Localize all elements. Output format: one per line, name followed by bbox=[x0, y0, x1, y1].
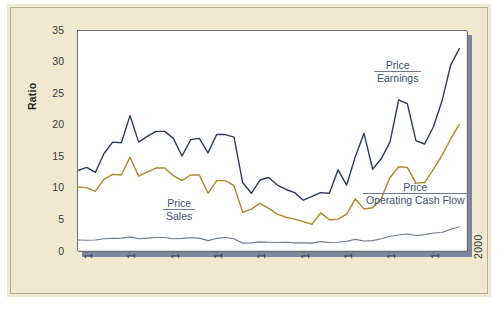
chart-figure: Ratio 05101520253035 1955196019651970197… bbox=[0, 0, 504, 309]
y-tick-label: 20 bbox=[0, 119, 64, 130]
annotation-price-earnings-denominator: Earnings bbox=[374, 72, 421, 84]
y-tick-label: 0 bbox=[0, 246, 64, 257]
annotation-price-ocf-numerator: Price bbox=[363, 181, 468, 194]
annotation-price-earnings-numerator: Price bbox=[374, 59, 421, 72]
annotation-price-ocf-denominator: Operating Cash Flow bbox=[363, 194, 468, 206]
annotation-price-earnings: Price Earnings bbox=[374, 59, 421, 85]
y-tick-label: 30 bbox=[0, 56, 64, 67]
annotation-price-sales-denominator: Sales bbox=[163, 210, 195, 222]
y-tick-label: 15 bbox=[0, 151, 64, 162]
annotation-price-operating-cash-flow: Price Operating Cash Flow bbox=[363, 181, 468, 207]
y-tick-label: 35 bbox=[0, 25, 64, 36]
series-line bbox=[78, 124, 459, 224]
annotation-price-sales: Price Sales bbox=[163, 197, 195, 223]
y-tick-label: 5 bbox=[0, 214, 64, 225]
x-tick-label: 2000 bbox=[472, 234, 484, 259]
annotation-price-sales-numerator: Price bbox=[163, 197, 195, 210]
y-tick-label: 25 bbox=[0, 88, 64, 99]
series-line bbox=[78, 227, 459, 243]
y-tick-label: 10 bbox=[0, 182, 64, 193]
